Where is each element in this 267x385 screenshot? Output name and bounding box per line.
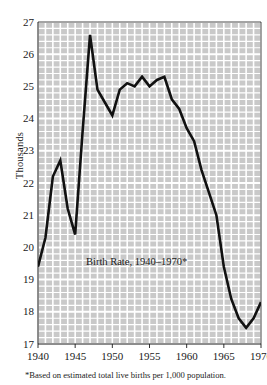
y-tick-label: 27 bbox=[8, 17, 34, 28]
x-tick-label: 1960 bbox=[176, 351, 198, 362]
y-tick-label: 20 bbox=[8, 242, 34, 253]
y-tick-label: 19 bbox=[8, 274, 34, 285]
birth-rate-chart-figure: Thousands 2726252423222120191817 Birth R… bbox=[0, 0, 267, 385]
plot-svg bbox=[38, 22, 261, 344]
y-tick-label: 23 bbox=[8, 145, 34, 156]
y-tick-label: 22 bbox=[8, 178, 34, 189]
y-tick-label: 25 bbox=[8, 81, 34, 92]
x-axis-tick-marks bbox=[38, 344, 261, 348]
chart-title-caption: Birth Rate, 1940–1970* bbox=[86, 256, 187, 267]
x-tick-label: 1955 bbox=[139, 351, 161, 362]
y-tick-label: 26 bbox=[8, 49, 34, 60]
chart-footnote: *Based on estimated total live births pe… bbox=[25, 370, 226, 380]
plot-area bbox=[38, 22, 261, 344]
x-axis-tick-labels: 1940194519501955196019651970 bbox=[0, 351, 267, 367]
x-tick-label: 1945 bbox=[64, 351, 86, 362]
y-tick-label: 21 bbox=[8, 210, 34, 221]
x-tick-label: 1965 bbox=[213, 351, 235, 362]
x-tick-label: 1970 bbox=[250, 351, 267, 362]
y-tick-label: 17 bbox=[8, 339, 34, 350]
x-tick-label: 1950 bbox=[101, 351, 123, 362]
y-axis-tick-labels: 2726252423222120191817 bbox=[4, 0, 34, 385]
y-tick-label: 18 bbox=[8, 306, 34, 317]
x-tick-label: 1940 bbox=[27, 351, 49, 362]
y-tick-label: 24 bbox=[8, 113, 34, 124]
